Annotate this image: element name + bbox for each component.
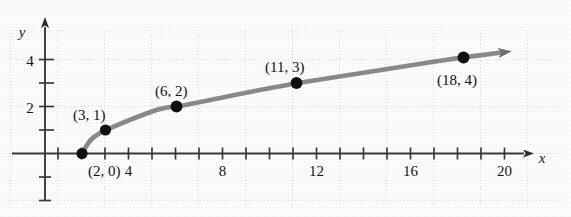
data-point-marker bbox=[171, 101, 183, 113]
point-label-3-1: (3, 1) bbox=[73, 107, 106, 124]
x-tick-label-8: 8 bbox=[219, 163, 227, 179]
x-tick-label-4: 4 bbox=[125, 163, 133, 179]
graph-figure: y x 2 4 4 8 12 16 20 (2, 0) (3, 1) (6, 2… bbox=[0, 0, 571, 217]
point-label-11-3: (11, 3) bbox=[265, 59, 304, 76]
point-label-2-0: (2, 0) bbox=[88, 163, 121, 180]
data-point-marker bbox=[100, 124, 111, 135]
x-tick-label-20: 20 bbox=[497, 163, 512, 179]
data-point-marker bbox=[458, 52, 470, 64]
data-point-marker bbox=[291, 77, 303, 89]
point-label-6-2: (6, 2) bbox=[155, 83, 188, 100]
x-tick-label-12: 12 bbox=[309, 163, 324, 179]
y-tick-label-4: 4 bbox=[26, 53, 34, 69]
y-axis-label: y bbox=[17, 24, 26, 40]
point-label-18-4: (18, 4) bbox=[437, 72, 477, 89]
data-point-marker bbox=[76, 148, 87, 159]
x-axis-label: x bbox=[538, 150, 546, 166]
y-tick-label-2: 2 bbox=[26, 100, 34, 116]
coordinate-plane-svg: y x 2 4 4 8 12 16 20 (2, 0) (3, 1) (6, 2… bbox=[0, 0, 571, 217]
x-tick-label-16: 16 bbox=[403, 163, 419, 179]
